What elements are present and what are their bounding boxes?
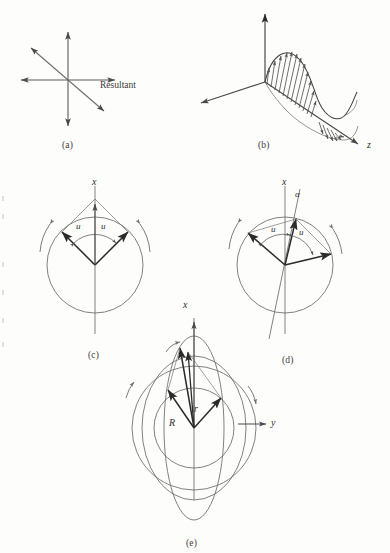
rotating-vector-right (95, 232, 128, 265)
scan-edge-artifact (2, 214, 4, 219)
panel-caption-b: (b) (258, 140, 270, 150)
wave-envelope-curve (265, 53, 357, 119)
panel-e-superposed-orbits (126, 318, 266, 520)
panel-e-axis-x-label: x (183, 299, 187, 310)
construction-line-right (188, 352, 221, 398)
panel-c-axis-x-label: x (92, 176, 96, 187)
rotating-vector-left (62, 232, 95, 265)
panel-caption-c: (c) (88, 350, 99, 360)
rotation-arrow-left (229, 223, 238, 249)
construction-line-left (168, 348, 180, 390)
rotating-vector-left (248, 233, 285, 265)
rotating-vector-upper (285, 219, 296, 265)
panel-d-angle-u-left-label: u (271, 224, 276, 234)
resultant-arrow-lower-right (68, 80, 104, 111)
radius-vector-tall-secondary (188, 352, 194, 428)
axis-horizontal-left (201, 82, 265, 103)
scan-edge-artifact (2, 290, 4, 295)
resultant-arrow-upper-left (31, 48, 68, 80)
rotating-vector-right (285, 254, 331, 265)
scan-edge-artifact (2, 262, 4, 267)
panel-d-angle-alpha-label: α (295, 189, 300, 199)
rotation-arrow-right (248, 386, 256, 404)
scan-edge-artifact (2, 342, 4, 347)
panel-caption-d: (d) (282, 355, 294, 365)
rotation-arrow-clockwise (140, 224, 150, 252)
panel-d-angle-u-right-label: u (299, 227, 304, 237)
panel-b-wave-axes (201, 14, 358, 144)
panel-a-vector-cross (21, 32, 115, 126)
panel-c-angle-u-right-label: u (101, 221, 106, 231)
panel-c-angle-u-left-label: u (76, 221, 81, 231)
angle-arc-u-right (293, 236, 313, 255)
wave-displacement-vectors (267, 52, 316, 117)
figure-root: Resultant x u u x α u u z x y R r (a) (b… (0, 0, 390, 553)
figure-canvas (0, 0, 390, 553)
panel-e-axis-y-label: y (271, 417, 275, 428)
rotation-arrow-counterclockwise (40, 224, 50, 252)
radius-vector-r-right (194, 398, 221, 428)
panel-d-axis-x-label: x (282, 176, 286, 187)
angle-arc-u-left (262, 234, 290, 243)
rotation-arrow-left (126, 382, 134, 398)
resultant-label: Resultant (100, 80, 136, 90)
panel-caption-e: (e) (186, 538, 197, 548)
panel-d-rotating-vectors-tilted (229, 186, 342, 339)
panel-c-rotating-vectors (40, 186, 150, 334)
panel-b-axis-z-label: z (367, 139, 371, 150)
scan-edge-artifact (2, 196, 4, 201)
panel-caption-a: (a) (62, 140, 73, 150)
panel-e-radius-R-label: R (169, 417, 175, 428)
scan-edge-artifact (2, 318, 4, 323)
rotation-arrow-right (333, 229, 342, 254)
panel-e-radius-r-label: r (194, 403, 198, 414)
